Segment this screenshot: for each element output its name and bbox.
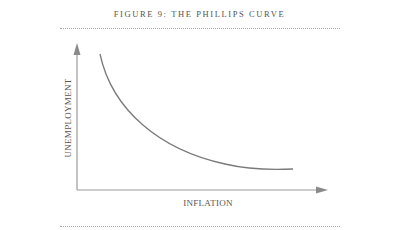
y-axis-arrowhead-icon bbox=[74, 43, 81, 55]
x-axis-label: INFLATION bbox=[0, 198, 399, 208]
bottom-divider bbox=[60, 226, 340, 227]
x-axis-arrowhead-icon bbox=[316, 187, 328, 194]
phillips-curve-line bbox=[100, 54, 293, 169]
phillips-curve-chart bbox=[0, 0, 399, 230]
y-axis-label: UNEMPLOYMENT bbox=[63, 78, 73, 157]
